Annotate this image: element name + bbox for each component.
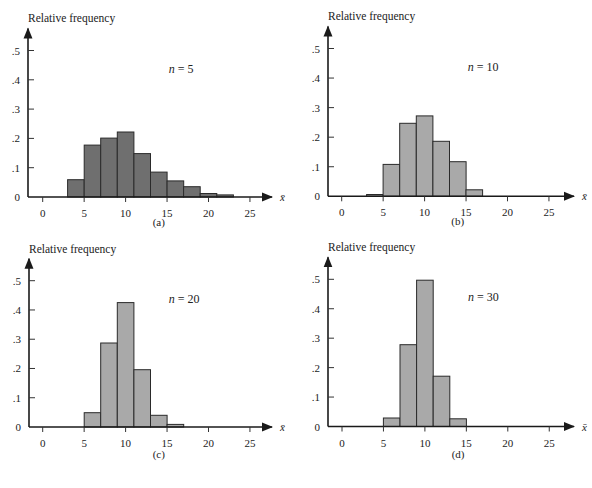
histogram-bar <box>167 181 184 197</box>
sample-size-label: n = 30 <box>468 290 499 304</box>
y-tick-label: 0 <box>315 421 321 433</box>
y-axis-title: Relative frequency <box>328 10 415 23</box>
y-tick-label: .4 <box>312 303 321 315</box>
x-tick-label: 20 <box>203 437 215 449</box>
x-tick-label: 0 <box>40 437 46 449</box>
histogram-bar <box>417 280 434 426</box>
bars <box>84 303 184 427</box>
x-tick-label: 20 <box>203 207 215 219</box>
y-axis-title: Relative frequency <box>29 243 116 256</box>
y-tick-label: .3 <box>12 103 21 115</box>
y-tick-label: 0 <box>315 190 321 202</box>
x-tick-label: 10 <box>419 437 431 449</box>
x-tick-label: 25 <box>543 206 555 218</box>
x-tick-label: 5 <box>81 437 87 449</box>
panel-a: Relative frequency n = 5 (a) 05101520250… <box>12 12 285 229</box>
histogram-bar <box>101 343 118 427</box>
x-tick-label: 5 <box>81 207 87 219</box>
panel-b: Relative frequency n = 10 (b) 0510152025… <box>312 10 587 228</box>
y-tick-label: .1 <box>312 161 320 173</box>
x-tick-label: 5 <box>381 437 387 449</box>
histogram-bar <box>134 154 151 197</box>
x-tick-label: 5 <box>380 206 386 218</box>
histogram-bar <box>383 164 400 196</box>
histogram-bar <box>84 413 101 427</box>
y-tick-label: 0 <box>15 191 21 203</box>
y-tick-label: .4 <box>312 72 321 84</box>
histogram-bar <box>450 419 467 427</box>
y-tick-label: .3 <box>312 102 321 114</box>
sample-size-label: n = 20 <box>169 292 200 306</box>
histogram-bar <box>184 187 201 197</box>
panel-caption: (d) <box>452 448 465 461</box>
panel-c: Relative frequency n = 20 (c) 0510152025… <box>13 243 285 461</box>
histogram-bar <box>466 190 483 197</box>
x-tick-label: 0 <box>339 206 345 218</box>
bars <box>367 116 483 196</box>
histogram-bar <box>383 418 400 427</box>
x-tick-label: 10 <box>120 437 132 449</box>
y-tick-label: .2 <box>12 132 20 144</box>
histogram-bar <box>400 345 417 427</box>
panel-caption: (c) <box>153 448 166 461</box>
x-tick-label: 15 <box>461 206 473 218</box>
x-axis-title: x̄ <box>279 191 285 203</box>
histogram-figure: Relative frequency n = 5 (a) 05101520250… <box>0 0 592 488</box>
x-tick-label: 20 <box>502 206 514 218</box>
histogram-bar <box>84 145 101 197</box>
y-tick-label: .5 <box>12 45 21 57</box>
y-tick-label: .5 <box>312 43 321 55</box>
y-tick-label: .1 <box>13 392 21 404</box>
x-tick-label: 15 <box>461 437 473 449</box>
bars <box>383 280 466 426</box>
y-tick-label: .1 <box>312 391 320 403</box>
x-tick-label: 0 <box>339 437 345 449</box>
y-axis-title: Relative frequency <box>328 241 415 254</box>
y-axis-title: Relative frequency <box>28 12 115 25</box>
histogram-bar <box>117 132 134 197</box>
histogram-bar <box>117 303 134 427</box>
histogram-bar <box>450 162 467 197</box>
histogram-bar <box>151 415 168 427</box>
histogram-grid-svg: Relative frequency n = 5 (a) 05101520250… <box>0 0 592 488</box>
y-tick-label: .2 <box>312 362 320 374</box>
x-axis-title: x̄ <box>581 421 587 433</box>
histogram-bar <box>433 376 450 426</box>
x-tick-label: 0 <box>40 207 46 219</box>
y-tick-label: .3 <box>13 333 22 345</box>
x-tick-label: 25 <box>244 207 256 219</box>
y-tick-label: .2 <box>13 362 21 374</box>
y-tick-label: .5 <box>312 273 321 285</box>
histogram-bar <box>101 138 118 197</box>
sample-size-label: n = 10 <box>468 60 499 74</box>
x-tick-label: 15 <box>162 437 174 449</box>
y-tick-label: .4 <box>13 304 22 316</box>
x-axis-title: x̄ <box>279 421 285 433</box>
histogram-bar <box>68 180 85 197</box>
y-tick-label: .1 <box>12 162 20 174</box>
x-axis-title: x̄ <box>581 190 587 202</box>
x-tick-label: 20 <box>502 437 514 449</box>
y-tick-label: 0 <box>16 421 22 433</box>
y-tick-label: .2 <box>312 131 320 143</box>
x-tick-label: 25 <box>244 437 256 449</box>
histogram-bar <box>433 141 450 196</box>
panel-d: Relative frequency n = 30 (d) 0510152025… <box>312 241 587 461</box>
histogram-bar <box>416 116 433 196</box>
x-tick-label: 10 <box>120 207 132 219</box>
x-tick-label: 15 <box>162 207 174 219</box>
y-tick-label: .5 <box>13 275 22 287</box>
histogram-bar <box>151 172 168 197</box>
x-tick-label: 25 <box>544 437 556 449</box>
sample-size-label: n = 5 <box>169 62 194 76</box>
x-tick-label: 10 <box>419 206 431 218</box>
histogram-bar <box>400 123 417 196</box>
y-tick-label: .4 <box>12 74 21 86</box>
y-tick-label: .3 <box>312 332 321 344</box>
histogram-bar <box>134 370 151 427</box>
bars <box>68 132 234 197</box>
